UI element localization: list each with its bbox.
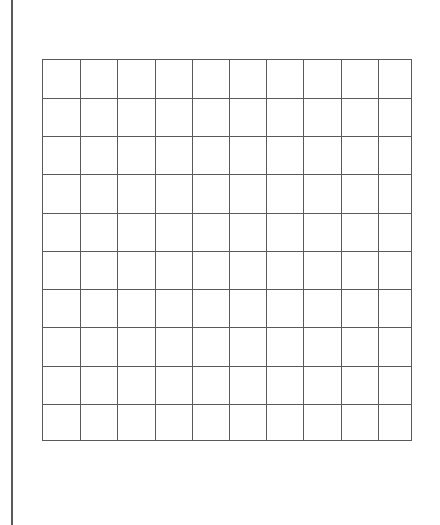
grid-horizontal-line [43,404,411,406]
grid-horizontal-line [43,289,411,291]
grid-horizontal-line [43,98,411,100]
grid-horizontal-line [43,174,411,176]
grid-horizontal-line [43,327,411,329]
margin-line [11,0,13,525]
grid-horizontal-line [43,251,411,253]
grid-horizontal-line [43,213,411,215]
grid-horizontal-line [43,136,411,138]
grid-horizontal-line [43,366,411,368]
grid-table [42,59,412,441]
